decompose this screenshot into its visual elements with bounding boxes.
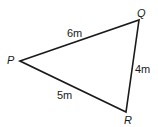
triangle-diagram: P Q R 6m 4m 5m bbox=[0, 0, 158, 127]
vertex-label-r: R bbox=[124, 114, 132, 126]
vertex-label-q: Q bbox=[137, 7, 146, 19]
side-label-qr: 4m bbox=[135, 63, 150, 75]
side-label-pr: 5m bbox=[57, 89, 72, 101]
side-label-pq: 6m bbox=[67, 27, 82, 39]
vertex-label-p: P bbox=[7, 54, 15, 66]
